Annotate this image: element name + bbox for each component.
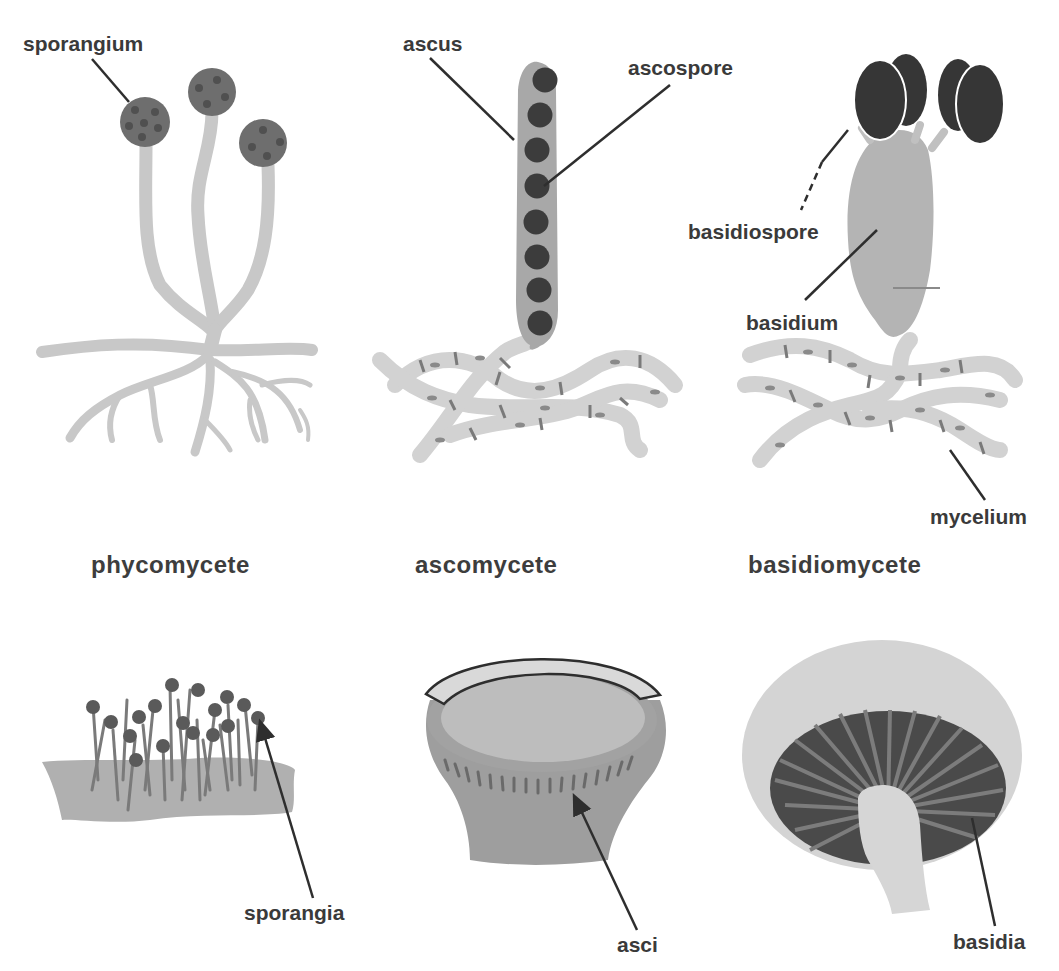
ascocarp-cup-illustration: [426, 659, 666, 865]
label-sporangia: sporangia: [244, 901, 345, 924]
fungi-diagram: sporangium ascus ascospore basidiospore …: [0, 0, 1059, 971]
sporangia-mat-illustration: [42, 678, 295, 822]
title-phycomycete: phycomycete: [91, 551, 250, 578]
label-ascospore: ascospore: [628, 56, 733, 79]
basidiospores: [854, 54, 1004, 144]
label-basidium: basidium: [746, 311, 838, 334]
label-basidia: basidia: [953, 930, 1026, 953]
title-basidiomycete: basidiomycete: [748, 551, 921, 578]
label-ascus: ascus: [403, 32, 463, 55]
label-asci: asci: [617, 933, 658, 956]
label-basidiospore: basidiospore: [688, 220, 819, 243]
ascomycete-illustration: [380, 62, 675, 455]
basidium-body: [847, 130, 933, 337]
phycomycete-illustration: [42, 68, 312, 452]
title-ascomycete: ascomycete: [415, 551, 557, 578]
label-mycelium: mycelium: [930, 505, 1027, 528]
label-sporangium: sporangium: [23, 32, 143, 55]
basidiomycete-illustration: [745, 54, 1015, 460]
mushroom-illustration: [742, 640, 1022, 914]
